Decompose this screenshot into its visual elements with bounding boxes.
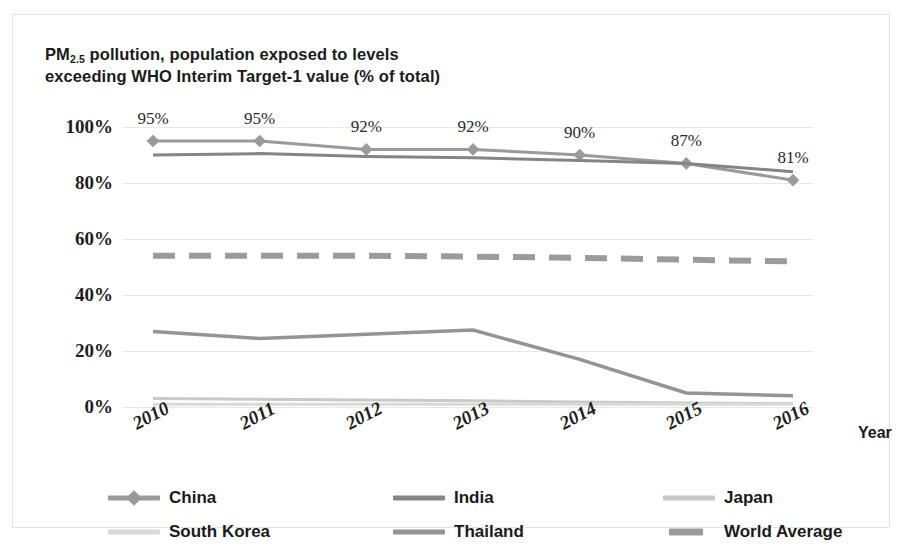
chart-title: PM2.5 pollution, population exposed to l…: [45, 43, 605, 88]
legend-diamond-icon: [126, 490, 142, 506]
data-label: 95%: [244, 109, 275, 129]
y-axis-tick-label: 100%: [66, 116, 114, 138]
data-label: 95%: [137, 109, 168, 129]
data-label: 90%: [564, 123, 595, 143]
legend-swatch-icon: [663, 525, 715, 539]
chart-title-line1-rest: pollution, population exposed to levels: [85, 45, 399, 63]
legend-line: [108, 530, 160, 535]
series-line-world-average: [153, 256, 793, 262]
legend-swatch-icon: [393, 491, 445, 505]
legend-item-india[interactable]: India: [393, 488, 663, 508]
legend-label: Thailand: [454, 522, 524, 542]
legend-item-japan[interactable]: Japan: [663, 488, 868, 508]
legend-swatch-icon: [108, 491, 160, 505]
legend-label: China: [169, 488, 216, 508]
legend-label: World Average: [724, 522, 842, 542]
series-canvas: [123, 127, 813, 407]
data-point-marker: [147, 135, 160, 148]
data-label: 92%: [351, 117, 382, 137]
data-point-marker: [787, 174, 800, 187]
legend-line: [393, 530, 445, 535]
y-axis-tick-label: 20%: [75, 340, 113, 362]
y-axis-tick-label: 40%: [75, 284, 113, 306]
chart-legend: ChinaIndiaJapanSouth KoreaThailandWorld …: [108, 481, 868, 544]
x-axis-title: Year: [858, 424, 892, 442]
data-point-marker: [467, 143, 480, 156]
legend-item-thailand[interactable]: Thailand: [393, 522, 663, 542]
data-label: 81%: [777, 148, 808, 168]
series-line-thailand: [153, 330, 793, 396]
data-point-marker: [253, 135, 266, 148]
legend-label: South Korea: [169, 522, 270, 542]
legend-item-south-korea[interactable]: South Korea: [108, 522, 393, 542]
y-axis-tick-label: 80%: [75, 172, 113, 194]
legend-label: Japan: [724, 488, 773, 508]
legend-swatch-icon: [108, 525, 160, 539]
plot-area: 0%20%40%60%80%100% 95%95%92%92%90%87%81%: [123, 127, 813, 407]
legend-line: [393, 496, 445, 501]
legend-label: India: [454, 488, 494, 508]
chart-title-pm-prefix: PM: [45, 45, 70, 63]
legend-item-world-average[interactable]: World Average: [663, 522, 868, 542]
chart-title-pm-subscript: 2.5: [70, 53, 85, 65]
legend-swatch-icon: [663, 491, 715, 505]
legend-swatch-icon: [393, 525, 445, 539]
y-axis-tick-label: 60%: [75, 228, 113, 250]
data-label: 87%: [671, 131, 702, 151]
series-line-india: [153, 154, 793, 172]
legend-line: [669, 529, 703, 536]
data-point-marker: [360, 143, 373, 156]
legend-item-china[interactable]: China: [108, 488, 393, 508]
chart-title-line2: exceeding WHO Interim Target-1 value (% …: [45, 67, 440, 85]
chart-title-line1: PM2.5 pollution, population exposed to l…: [45, 45, 399, 63]
y-axis-tick-label: 0%: [85, 396, 114, 418]
chart-frame: PM2.5 pollution, population exposed to l…: [12, 14, 890, 528]
legend-line: [663, 496, 715, 501]
data-label: 92%: [457, 117, 488, 137]
